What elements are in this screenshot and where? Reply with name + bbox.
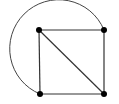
vertex-bottom-left — [37, 91, 43, 97]
vertex-top-left — [36, 27, 42, 33]
edge-diagonal — [39, 30, 104, 94]
graph-diagram — [0, 0, 119, 104]
vertex-top-right — [101, 27, 107, 33]
edge-left — [39, 30, 40, 94]
vertex-bottom-right — [101, 91, 107, 97]
